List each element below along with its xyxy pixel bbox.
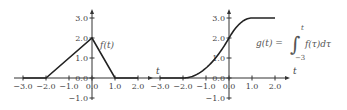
chart-canvas: −3.0−2.0−1.00.01.02.0−1.00.01.02.03.0tf(…	[0, 0, 347, 110]
x-tick-label: −1.0	[59, 82, 78, 91]
annotation-integral-symbol: ∫	[290, 32, 300, 56]
y-tick-label: 1.0	[75, 54, 88, 63]
x-tick-label: −2.0	[36, 82, 55, 91]
x-tick-label: 0.0	[86, 82, 99, 91]
annotation-integrand: f(τ)dτ	[304, 39, 332, 49]
series-line-gt	[160, 18, 275, 78]
x-tick-label: −2.0	[173, 82, 192, 91]
x-tick-label: 1.0	[109, 82, 122, 91]
x-axis-arrow	[285, 76, 290, 80]
chart-panel-f: −3.0−2.0−1.00.01.02.0−1.00.01.02.03.0tf(…	[13, 9, 160, 103]
x-tick-label: −3.0	[13, 82, 32, 91]
x-tick-label: 1.0	[246, 82, 259, 91]
y-tick-label: −1.0	[69, 94, 88, 103]
annotation-upper-limit: t	[301, 24, 304, 32]
x-axis-label: t	[293, 66, 297, 76]
y-tick-label: 3.0	[212, 14, 225, 23]
annotation-lhs: g(t) =	[256, 38, 283, 48]
y-tick-label: −1.0	[206, 94, 225, 103]
x-tick-label: −1.0	[196, 82, 215, 91]
curve-annotation: f(t)	[99, 40, 114, 50]
y-tick-label: 2.0	[75, 34, 88, 43]
y-axis-arrow	[227, 9, 231, 14]
x-axis-label: t	[156, 66, 160, 76]
y-axis-arrow	[90, 9, 94, 14]
y-tick-label: 0.0	[75, 74, 88, 83]
y-tick-label: 3.0	[75, 14, 88, 23]
x-tick-label: −3.0	[150, 82, 169, 91]
annotation-lower-limit: −3	[295, 54, 305, 62]
y-tick-label: 0.0	[212, 74, 225, 83]
x-tick-label: 0.0	[223, 82, 236, 91]
x-tick-label: 2.0	[269, 82, 282, 91]
y-tick-label: 2.0	[212, 34, 225, 43]
chart-panel-g: −3.0−2.0−1.00.01.02.0−1.00.01.02.03.0tg(…	[150, 9, 332, 103]
x-tick-label: 2.0	[132, 82, 145, 91]
